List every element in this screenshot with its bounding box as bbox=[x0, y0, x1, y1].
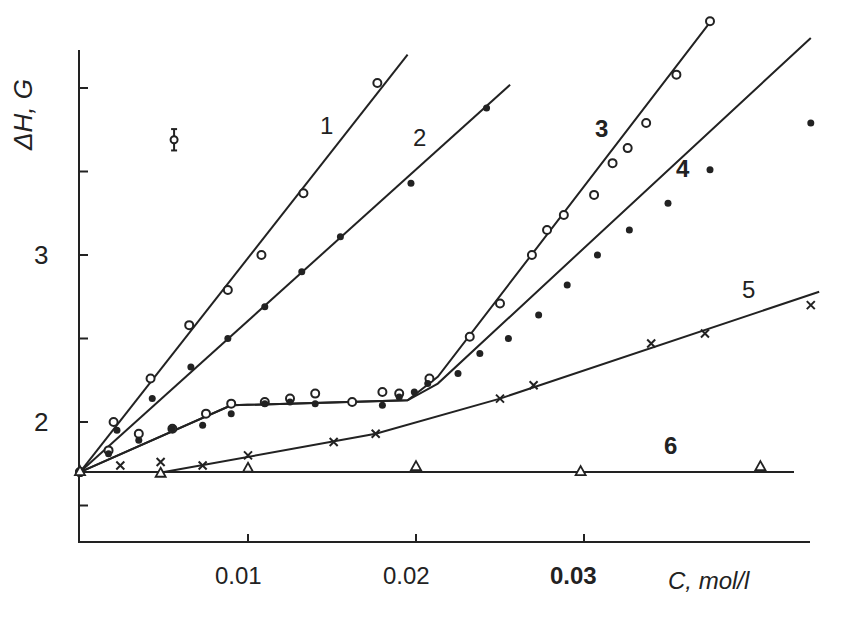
y-tick-label-3: 3 bbox=[34, 240, 48, 271]
curve-label-4: 4 bbox=[676, 155, 689, 183]
marker-filled-circle bbox=[105, 450, 112, 457]
marker-triangle bbox=[576, 466, 586, 475]
marker-filled-circle bbox=[379, 402, 386, 409]
marker-filled-circle bbox=[135, 437, 142, 444]
marker-open-circle bbox=[202, 410, 210, 418]
error-marker bbox=[171, 136, 178, 143]
axes bbox=[79, 50, 810, 543]
plot-area bbox=[0, 0, 842, 625]
x-tick-label-003: 0.03 bbox=[550, 562, 597, 590]
marker-x bbox=[116, 461, 124, 469]
marker-x bbox=[807, 301, 815, 309]
y-axis-label: ΔH, G bbox=[8, 79, 39, 150]
marker-filled-circle bbox=[424, 380, 431, 387]
marker-filled-circle bbox=[665, 200, 672, 207]
marker-open-circle bbox=[311, 390, 319, 398]
x-axis-label: C, mol/l bbox=[668, 567, 749, 595]
marker-open-circle bbox=[672, 71, 680, 79]
marker-filled-circle bbox=[337, 233, 344, 240]
marker-open-circle bbox=[560, 211, 568, 219]
marker-open-circle bbox=[706, 17, 714, 25]
marker-filled-circle bbox=[594, 252, 601, 259]
marker-filled-circle bbox=[483, 105, 490, 112]
curve-label-5: 5 bbox=[742, 276, 755, 304]
x-tick-label-001: 0.01 bbox=[215, 562, 262, 590]
marker-open-circle bbox=[378, 388, 386, 396]
error-bar-sample bbox=[171, 129, 178, 150]
marker-open-circle bbox=[185, 321, 193, 329]
marker-open-circle bbox=[299, 189, 307, 197]
marker-open-circle bbox=[257, 251, 265, 259]
marker-open-circle bbox=[543, 226, 551, 234]
marker-filled-circle bbox=[411, 388, 418, 395]
marker-triangle bbox=[411, 461, 421, 470]
marker-triangle bbox=[243, 463, 253, 472]
marker-filled-circle bbox=[261, 400, 268, 407]
y-ticks bbox=[79, 88, 88, 506]
marker-open-circle bbox=[135, 430, 143, 438]
marker-filled-circle bbox=[169, 425, 176, 432]
marker-open-circle bbox=[147, 375, 155, 383]
curve-label-1: 1 bbox=[320, 112, 333, 140]
marker-open-circle bbox=[466, 333, 474, 341]
data-markers bbox=[75, 17, 815, 477]
marker-open-circle bbox=[642, 119, 650, 127]
marker-open-circle bbox=[609, 159, 617, 167]
marker-filled-circle bbox=[407, 180, 414, 187]
marker-open-circle bbox=[227, 400, 235, 408]
marker-filled-circle bbox=[396, 393, 403, 400]
marker-open-circle bbox=[528, 251, 536, 259]
marker-filled-circle bbox=[564, 282, 571, 289]
marker-filled-circle bbox=[298, 268, 305, 275]
marker-open-circle bbox=[590, 191, 598, 199]
marker-open-circle bbox=[224, 286, 232, 294]
fit-lines bbox=[80, 18, 819, 472]
curve-label-6: 6 bbox=[664, 432, 677, 460]
y-tick-label-2: 2 bbox=[34, 407, 48, 438]
marker-triangle bbox=[755, 461, 765, 470]
marker-x bbox=[647, 340, 655, 348]
marker-filled-circle bbox=[261, 303, 268, 310]
marker-filled-circle bbox=[626, 226, 633, 233]
x-ticks bbox=[248, 534, 584, 542]
marker-filled-circle bbox=[287, 398, 294, 405]
curve-label-2: 2 bbox=[413, 124, 426, 152]
curve-label-3: 3 bbox=[595, 115, 608, 143]
marker-x bbox=[157, 458, 165, 466]
marker-open-circle bbox=[624, 144, 632, 152]
marker-filled-circle bbox=[312, 400, 319, 407]
marker-open-circle bbox=[348, 398, 356, 406]
fit-line-1 bbox=[80, 55, 408, 473]
marker-filled-circle bbox=[224, 335, 231, 342]
fit-line-4 bbox=[80, 38, 811, 472]
marker-open-circle bbox=[373, 79, 381, 87]
marker-filled-circle bbox=[149, 395, 156, 402]
marker-open-circle bbox=[496, 299, 504, 307]
fit-line-5 bbox=[164, 292, 819, 472]
marker-open-circle bbox=[110, 418, 118, 426]
marker-filled-circle bbox=[228, 410, 235, 417]
marker-filled-circle bbox=[535, 312, 542, 319]
marker-filled-circle bbox=[187, 363, 194, 370]
marker-filled-circle bbox=[455, 370, 462, 377]
marker-filled-circle bbox=[807, 120, 814, 127]
marker-filled-circle bbox=[505, 335, 512, 342]
marker-filled-circle bbox=[476, 350, 483, 357]
marker-filled-circle bbox=[707, 166, 714, 173]
fit-line-3 bbox=[80, 18, 713, 472]
marker-filled-circle bbox=[113, 427, 120, 434]
marker-filled-circle bbox=[199, 422, 206, 429]
marker-triangle bbox=[156, 468, 166, 477]
x-tick-label-002: 0.02 bbox=[383, 562, 430, 590]
